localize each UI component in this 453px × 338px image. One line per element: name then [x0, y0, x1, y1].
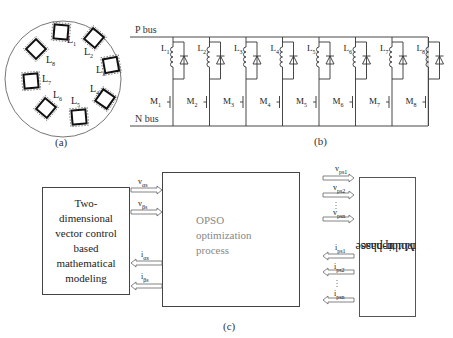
label-i-beta-s: iβs	[141, 272, 149, 283]
label-v-alpha-s: vαs	[138, 177, 147, 188]
label-i-ps2: ips2	[334, 262, 345, 273]
arrow-i-beta	[131, 282, 162, 290]
label-i-alpha-s: iαs	[141, 250, 149, 261]
arrow-v-ps1	[323, 174, 354, 182]
label-v-ps1: vps1	[335, 164, 347, 175]
label-v-beta-s: vβs	[138, 199, 147, 210]
label-v-psn: vpsn	[333, 208, 345, 219]
label-i-psn: ipsn	[334, 289, 345, 300]
label-i-ps1: ips1	[335, 243, 346, 254]
caption-c: (c)	[223, 320, 235, 332]
label-v-ps2: vps2	[333, 183, 345, 194]
panel-c-arrows	[0, 0, 453, 338]
